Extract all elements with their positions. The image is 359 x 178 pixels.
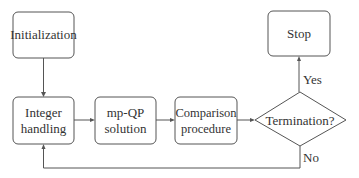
yes-label: Yes — [303, 72, 322, 87]
arrowhead-icon — [297, 56, 301, 61]
node-termination: Termination? — [255, 92, 346, 146]
arrowhead-icon — [170, 118, 175, 122]
edge-mpqp-to-comparison — [156, 118, 175, 122]
edge-init-to-integer — [41, 58, 46, 97]
arrowhead-icon — [90, 118, 95, 122]
comparison-label-line2: procedure — [181, 122, 231, 136]
integer-handling-label-line1: Integer — [25, 105, 62, 120]
node-mpqp-solution: mp-QP solution — [95, 97, 156, 144]
node-initialization: Initialization — [10, 12, 77, 58]
initialization-label: Initialization — [10, 27, 77, 42]
no-label: No — [303, 150, 319, 165]
node-comparison-procedure: Comparison procedure — [175, 97, 237, 144]
stop-label: Stop — [287, 26, 311, 41]
arrowhead-icon — [41, 92, 46, 97]
arrowhead-icon — [42, 144, 46, 149]
mpqp-label-line1: mp-QP — [107, 105, 145, 120]
mpqp-label-line2: solution — [105, 121, 147, 136]
comparison-label-line1: Comparison — [175, 106, 237, 120]
edge-integer-to-mpqp — [74, 118, 95, 122]
node-stop: Stop — [268, 11, 330, 56]
edge-termination-to-stop: Yes — [297, 56, 322, 92]
node-integer-handling: Integer handling — [13, 97, 74, 144]
termination-label: Termination? — [265, 113, 334, 128]
flowchart: Initialization Integer handling mp-QP so… — [0, 0, 359, 178]
comparison-procedure-box — [175, 97, 237, 144]
edge-comparison-to-termination — [237, 118, 255, 122]
edge-termination-to-integer: No — [42, 144, 319, 168]
integer-handling-label-line2: handling — [21, 121, 67, 136]
